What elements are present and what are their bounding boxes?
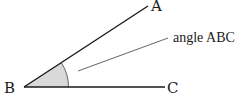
label-a: A: [150, 0, 162, 15]
annotation-text: angle ABC: [173, 30, 235, 45]
ray-ba: [24, 6, 148, 87]
label-b: B: [4, 79, 15, 96]
label-c: C: [167, 79, 178, 96]
angle-diagram: B A C angle ABC: [0, 0, 238, 96]
